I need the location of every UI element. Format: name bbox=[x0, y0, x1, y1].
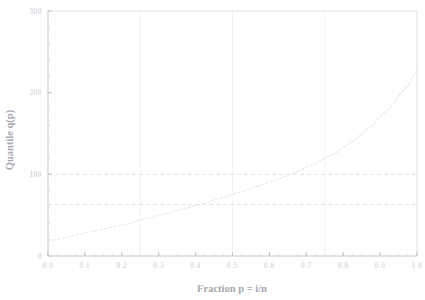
x-tick-label: 0.8 bbox=[338, 262, 349, 270]
chart-figure: 0.00.10.20.30.40.50.60.70.80.91.0 010020… bbox=[0, 0, 425, 300]
x-tick-label: 0.3 bbox=[153, 262, 164, 270]
y-tick-label: 0 bbox=[38, 253, 42, 261]
y-tick-label: 100 bbox=[29, 171, 42, 179]
x-tick-label: 0.9 bbox=[375, 262, 386, 270]
y-tick-label: 200 bbox=[29, 89, 42, 97]
x-tick-label: 0.1 bbox=[80, 262, 91, 270]
y-tick-label: 300 bbox=[29, 8, 42, 16]
y-axis-title: Quantile q(p) bbox=[4, 109, 16, 170]
x-tick-label: 0.5 bbox=[227, 262, 238, 270]
y-axis-tick-labels: 0100200300 bbox=[29, 8, 42, 261]
x-tick-label: 1.0 bbox=[412, 262, 423, 270]
x-axis-tick-labels: 0.00.10.20.30.40.50.60.70.80.91.0 bbox=[43, 262, 423, 270]
x-tick-label: 0.2 bbox=[116, 262, 127, 270]
quantile-plot: 0.00.10.20.30.40.50.60.70.80.91.0 010020… bbox=[0, 0, 425, 300]
x-tick-label: 0.7 bbox=[301, 262, 312, 270]
x-tick-label: 0.0 bbox=[43, 262, 54, 270]
x-tick-label: 0.4 bbox=[190, 262, 201, 270]
x-tick-label: 0.6 bbox=[264, 262, 275, 270]
x-axis-title: Fraction p = i/n bbox=[197, 283, 267, 294]
